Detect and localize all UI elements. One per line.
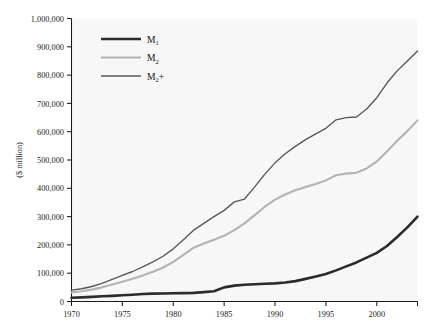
- legend-suffix: +: [159, 71, 164, 82]
- y-tick-label: 400,000: [37, 184, 64, 193]
- y-tick-label: 1,000,000: [31, 15, 64, 24]
- y-tick-label: 700,000: [37, 100, 64, 109]
- legend-subscript: 1: [156, 39, 159, 46]
- x-tick-label: 1995: [318, 310, 335, 319]
- x-tick-label: 1990: [267, 310, 284, 319]
- y-tick-label: 800,000: [37, 71, 64, 80]
- x-tick-label: 1975: [114, 310, 131, 319]
- legend-subscript: 2: [156, 58, 159, 65]
- x-tick-label: 1980: [165, 310, 182, 319]
- y-tick-label: 100,000: [37, 269, 64, 278]
- y-tick-label: 200,000: [37, 241, 64, 250]
- x-tick-label: 2000: [368, 310, 385, 319]
- x-tick-label: 1985: [216, 310, 233, 319]
- y-tick-label: 300,000: [37, 213, 64, 222]
- y-tick-label: 500,000: [37, 156, 64, 165]
- y-axis-ticks: 0100,000200,000300,000400,000500,000600,…: [31, 15, 72, 307]
- y-tick-label: 0: [60, 298, 64, 307]
- x-axis-ticks: 1970197519801985199019952000: [63, 302, 417, 319]
- x-tick-label: 1970: [63, 310, 80, 319]
- y-tick-label: 600,000: [37, 128, 64, 137]
- line-chart: 0100,000200,000300,000400,000500,000600,…: [0, 0, 428, 330]
- y-axis-title: ($ million): [15, 142, 24, 178]
- y-tick-label: 900,000: [37, 43, 64, 52]
- chart-container: 0100,000200,000300,000400,000500,000600,…: [0, 0, 428, 330]
